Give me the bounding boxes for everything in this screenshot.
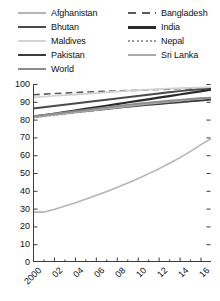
x-axis-labels: 20000204060810121416 xyxy=(33,266,220,301)
y-axis-tick-label: 100 xyxy=(15,80,30,89)
line-chart: AfghanistanBhutanMaldivesPakistanWorld B… xyxy=(0,0,220,301)
series-line-sri-lanka xyxy=(33,98,211,118)
legend-item-sri-lanka[interactable]: Sri Lanka xyxy=(128,48,208,62)
plot-svg xyxy=(33,84,211,262)
legend-label: Pakistan xyxy=(51,51,85,60)
legend-label: Bangladesh xyxy=(161,9,208,18)
plot-area xyxy=(33,84,211,262)
legend-label: Maldives xyxy=(51,37,86,46)
y-axis-tick-label: 50 xyxy=(20,169,30,178)
legend-label: World xyxy=(51,65,74,74)
y-axis-tick-label: 90 xyxy=(20,98,30,107)
legend-label: Nepal xyxy=(161,37,184,46)
y-axis-tick-label: 10 xyxy=(20,240,30,249)
series-line-maldives xyxy=(33,87,211,97)
chart-legend: AfghanistanBhutanMaldivesPakistanWorld B… xyxy=(0,0,220,78)
y-axis-tick-label: 20 xyxy=(20,222,30,231)
legend-item-pakistan[interactable]: Pakistan xyxy=(18,48,97,62)
legend-item-maldives[interactable]: Maldives xyxy=(18,34,97,48)
legend-column-right: BangladeshIndiaNepalSri Lanka xyxy=(128,6,208,62)
legend-column-left: AfghanistanBhutanMaldivesPakistanWorld xyxy=(18,6,97,76)
legend-item-bhutan[interactable]: Bhutan xyxy=(18,20,97,34)
y-axis-tick-label: 80 xyxy=(20,116,30,125)
y-axis-tick-label: 60 xyxy=(20,151,30,160)
legend-item-afghanistan[interactable]: Afghanistan xyxy=(18,6,97,20)
legend-label: Sri Lanka xyxy=(161,51,198,60)
legend-label: Bhutan xyxy=(51,23,79,32)
legend-item-india[interactable]: India xyxy=(128,20,208,34)
series-line-afghanistan xyxy=(33,139,211,213)
y-axis-tick-label: 40 xyxy=(20,187,30,196)
y-axis-tick-label: 30 xyxy=(20,205,30,214)
y-axis-tick-label: 70 xyxy=(20,133,30,142)
legend-label: India xyxy=(161,23,180,32)
legend-label: Afghanistan xyxy=(51,9,97,18)
y-axis-tick-label: 0 xyxy=(25,258,30,267)
legend-item-nepal[interactable]: Nepal xyxy=(128,34,208,48)
legend-item-world[interactable]: World xyxy=(18,62,97,76)
y-axis-labels: 0102030405060708090100 xyxy=(0,84,30,262)
legend-item-bangladesh[interactable]: Bangladesh xyxy=(128,6,208,20)
